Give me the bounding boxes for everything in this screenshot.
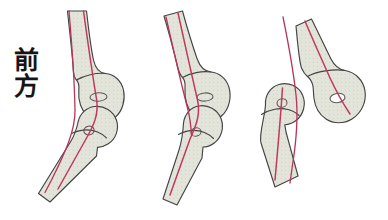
joint-alignment-diagram [0,0,388,220]
label-anterior: 前 方 [14,48,60,101]
anatomical-diagram-figure: 前 方 [0,0,388,220]
